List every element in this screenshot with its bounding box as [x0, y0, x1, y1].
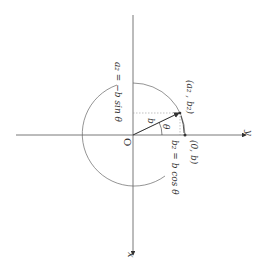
a2-equation-label: a₂ = −b sin θ [113, 62, 123, 123]
y-axis-label: y [244, 129, 255, 136]
diagram-canvas: y x O (a₂ , b₂) (0, b) b₂ = b cos θ a₂ =… [0, 0, 264, 273]
b2-equation-label: b₂ = b cos θ [170, 140, 180, 195]
radius-vector [133, 113, 179, 135]
circle-arc-right [133, 83, 185, 135]
point-a2-b2-label: (a₂ , b₂) [185, 80, 195, 114]
angle-label: θ [161, 124, 171, 130]
point-0-b [184, 134, 187, 137]
point-a2-b2 [179, 112, 182, 115]
point-0-b-label: (0, b) [189, 140, 199, 165]
radius-label: b [146, 118, 156, 124]
origin-label: O [122, 138, 133, 146]
x-axis-label: x [126, 252, 137, 258]
